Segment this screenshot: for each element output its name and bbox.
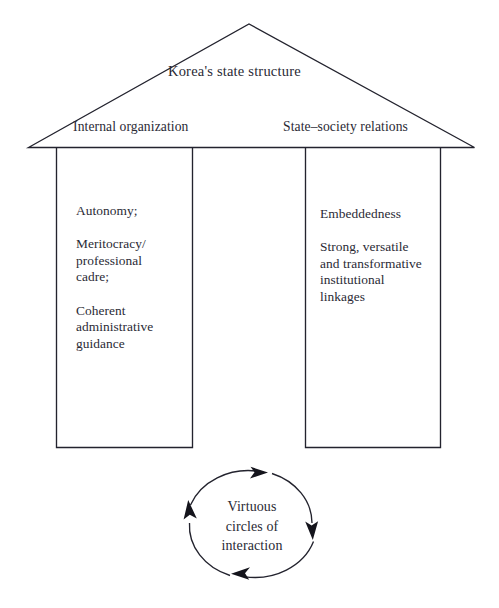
loop-label: Virtuous circles of interaction xyxy=(202,497,302,556)
left-pillar-text: Autonomy; Meritocracy/ professional cadr… xyxy=(76,203,191,352)
diagram-canvas: Korea's state structure Internal organiz… xyxy=(0,0,499,608)
loop-arrowhead-right xyxy=(305,521,318,540)
loop-arrowhead-top xyxy=(250,467,268,479)
loop-arrowhead-bottom xyxy=(231,567,250,580)
roof-label-right: State–society relations xyxy=(283,120,408,134)
roof-label-left: Internal organization xyxy=(73,120,188,134)
right-pillar-text: Embeddedness Strong, versatile and trans… xyxy=(320,206,442,306)
roof-title: Korea's state structure xyxy=(168,64,301,79)
loop-arrowhead-left xyxy=(184,500,197,520)
